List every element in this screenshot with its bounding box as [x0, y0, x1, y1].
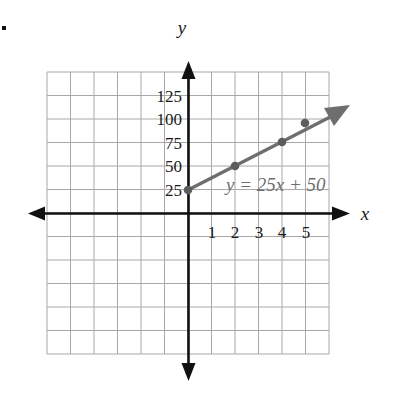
x-tick-label: 4 [278, 223, 287, 242]
x-tick-label: 1 [208, 223, 217, 242]
bullet-marker [2, 26, 6, 30]
data-point [231, 162, 240, 171]
equation-annotation: y = 25x + 50 [224, 174, 326, 195]
x-tick-label: 5 [302, 223, 311, 242]
y-tick-label: 75 [165, 134, 182, 153]
y-axis [182, 61, 196, 381]
coordinate-plane-svg: 125 100 75 50 25 1 2 3 4 5 y x y = 25x +… [0, 0, 393, 397]
x-axis-label: x [360, 203, 370, 224]
graph-figure: 125 100 75 50 25 1 2 3 4 5 y x y = 25x +… [0, 0, 393, 397]
y-tick-label: 25 [165, 181, 182, 200]
x-tick-label: 2 [231, 223, 240, 242]
y-tick-labels: 125 100 75 50 25 [157, 87, 183, 200]
x-axis-left-arrow [28, 207, 45, 221]
x-axis-right-arrow [332, 207, 350, 221]
y-axis-down-arrow [182, 363, 196, 381]
data-point [184, 186, 193, 195]
x-tick-labels: 1 2 3 4 5 [208, 223, 311, 242]
y-tick-label: 100 [157, 110, 183, 129]
y-axis-up-arrow [182, 61, 196, 79]
y-tick-label: 50 [165, 157, 182, 176]
y-tick-label: 125 [157, 87, 183, 106]
data-point [301, 119, 310, 128]
data-line-arrow [324, 105, 350, 126]
y-axis-label: y [176, 17, 187, 38]
x-tick-label: 3 [255, 223, 264, 242]
data-point [278, 138, 287, 147]
